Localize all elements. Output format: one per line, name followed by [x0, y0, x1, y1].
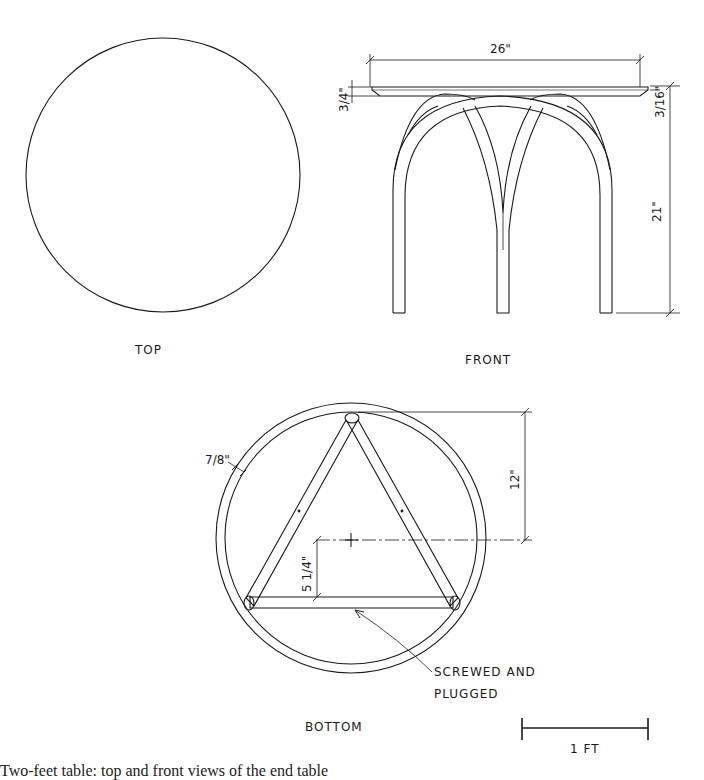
bottom-triangle-rails [244, 413, 460, 610]
top-view-tabletop-outline [26, 38, 300, 312]
front-tabletop [372, 87, 648, 96]
front-edge-bevel-dimension: 3/16" [653, 86, 667, 118]
note-screwed-and: SCREWED AND [434, 665, 536, 679]
bottom-view-label: BOTTOM [305, 720, 363, 734]
front-width-dimension: 26" [490, 42, 511, 56]
front-height-dimension: 21" [650, 201, 664, 222]
front-back-arch-right [530, 94, 610, 170]
scale-bar [522, 718, 648, 740]
front-view [372, 87, 648, 313]
bottom-view [216, 403, 486, 673]
bottom-dimensions [228, 408, 532, 672]
scale-bar-label: 1 FT [570, 742, 599, 756]
technical-drawing: TOP FRONT BOTTOM 26" 3/4" 3/16" 21" 7/8"… [0, 0, 704, 780]
front-back-arch-left [395, 94, 475, 170]
front-view-label: FRONT [465, 353, 511, 367]
bottom-rim-width-dimension: 7/8" [205, 453, 230, 467]
front-dimensions [348, 54, 680, 317]
front-top-thickness-dimension: 3/4" [337, 87, 351, 112]
note-plugged: PLUGGED [434, 687, 499, 701]
bottom-center-to-rail-dimension: 5 1/4" [300, 556, 314, 592]
top-view-label: TOP [134, 343, 162, 357]
figure-caption: Two-feet table: top and front views of t… [0, 762, 328, 780]
bottom-vertex-to-center-dimension: 12" [508, 469, 522, 490]
